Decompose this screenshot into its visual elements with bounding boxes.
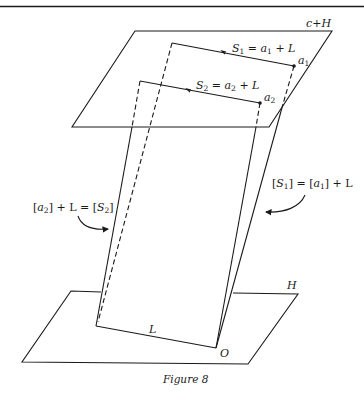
- a2-label: a2: [264, 91, 276, 105]
- origin-label: O: [220, 347, 229, 360]
- left-annotation: [a2] + L = [S2]: [33, 201, 114, 215]
- a2-point: [258, 101, 262, 105]
- upper-plane-label: c+H: [306, 17, 331, 30]
- a1-point: [292, 64, 296, 68]
- s2-label: S2 = a2 + L: [196, 79, 259, 93]
- s2-left-dashed: [132, 81, 140, 127]
- a1-dashed-drop: [283, 66, 294, 104]
- strip2-left-edge: [96, 127, 132, 326]
- s1-label: S1 = a1 + L: [232, 42, 295, 56]
- figure-caption: Figure 8: [162, 373, 209, 385]
- lower-plane-label: H: [286, 279, 297, 292]
- lower-plane: [22, 291, 298, 364]
- strip2-right-edge: [216, 127, 256, 348]
- left-annotation-arrow: [78, 216, 108, 229]
- strip1-right-edge: [216, 104, 283, 348]
- a2-dashed-drop: [256, 103, 260, 127]
- figure-8-diagram: c+H H S1 = a1 + L S2 = a2 + L a1 a2 O L …: [0, 0, 364, 401]
- right-annotation-arrow: [266, 195, 305, 212]
- a1-label: a1: [298, 54, 309, 68]
- right-annotation: [S1] = [a1] + L: [272, 177, 353, 191]
- L-label: L: [148, 323, 156, 336]
